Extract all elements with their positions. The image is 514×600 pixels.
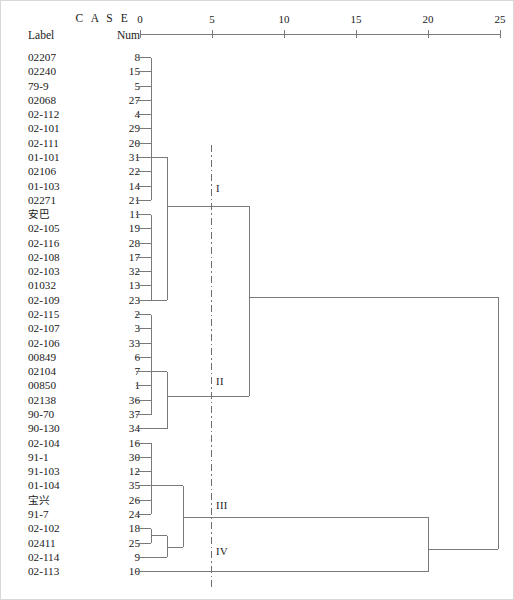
axis-group xyxy=(140,30,500,38)
dendrogram-tree xyxy=(0,0,514,600)
dendrogram-links xyxy=(136,58,498,572)
dendrogram-figure: C A S E Label Num 0510152025 02207802240… xyxy=(0,0,514,600)
